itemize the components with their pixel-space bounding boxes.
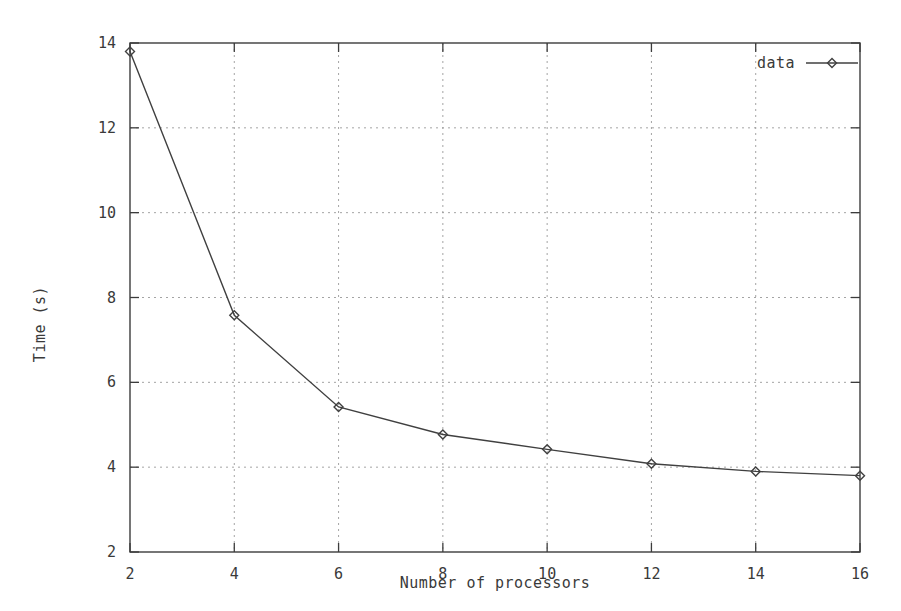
x-tick-label: 4 xyxy=(230,565,239,583)
legend-label-data: data xyxy=(757,54,795,72)
y-tick-label: 10 xyxy=(98,204,116,222)
x-tick-label: 6 xyxy=(334,565,343,583)
y-tick-label: 2 xyxy=(107,543,116,561)
x-tick-label: 2 xyxy=(125,565,134,583)
line-chart: 2468101214 246810121416 Number of proces… xyxy=(0,0,901,611)
chart-container: 2468101214 246810121416 Number of proces… xyxy=(0,0,901,611)
x-tick-label: 16 xyxy=(851,565,869,583)
y-tick-label: 6 xyxy=(107,373,116,391)
y-tick-label: 4 xyxy=(107,458,116,476)
y-tick-label: 8 xyxy=(107,289,116,307)
chart-background xyxy=(0,0,901,611)
x-tick-label: 14 xyxy=(747,565,765,583)
y-tick-label: 14 xyxy=(98,34,116,52)
x-axis-title: Number of processors xyxy=(400,574,591,592)
x-tick-label: 12 xyxy=(642,565,660,583)
y-tick-label: 12 xyxy=(98,119,116,137)
y-axis-title: Time (s) xyxy=(31,286,49,362)
